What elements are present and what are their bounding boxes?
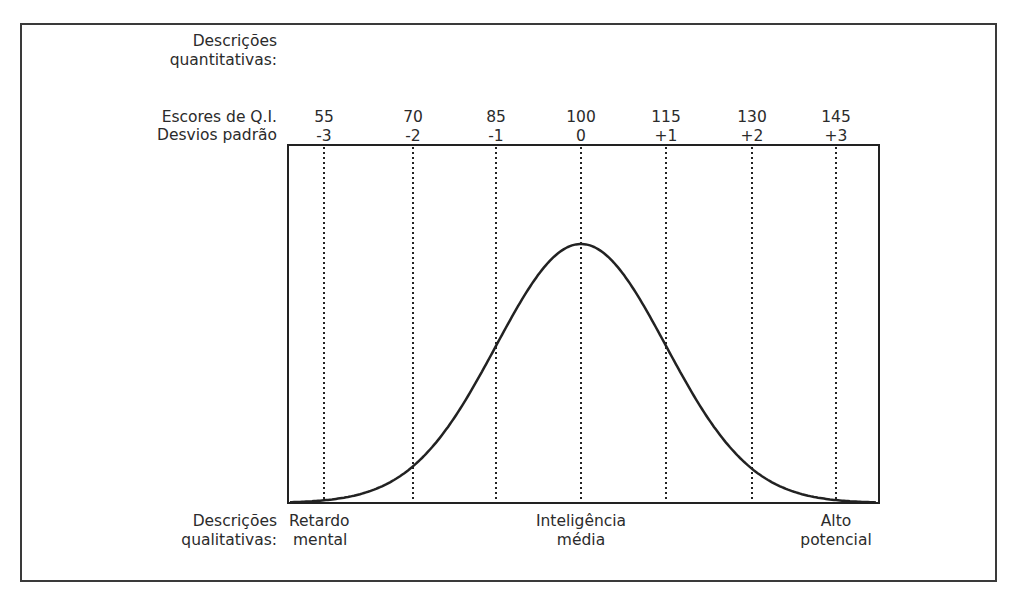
sd-gridlines — [324, 147, 836, 502]
label-line: potencial — [800, 531, 871, 550]
qualitative-descriptions-label: Descrições qualitativas: — [181, 512, 277, 550]
label-line: qualitativas: — [181, 531, 277, 550]
bell-curve — [290, 244, 876, 502]
normal-curve-plot — [0, 0, 1017, 599]
label-line: mental — [289, 531, 350, 550]
label-inteligencia-media: Inteligência média — [536, 512, 626, 550]
plot-frame — [288, 145, 879, 503]
label-line: média — [536, 531, 626, 550]
label-line: Descrições — [181, 512, 277, 531]
label-retardo-mental: Retardo mental — [289, 512, 350, 550]
label-alto-potencial: Alto potencial — [800, 512, 871, 550]
label-line: Retardo — [289, 512, 350, 531]
label-line: Inteligência — [536, 512, 626, 531]
label-line: Alto — [800, 512, 871, 531]
